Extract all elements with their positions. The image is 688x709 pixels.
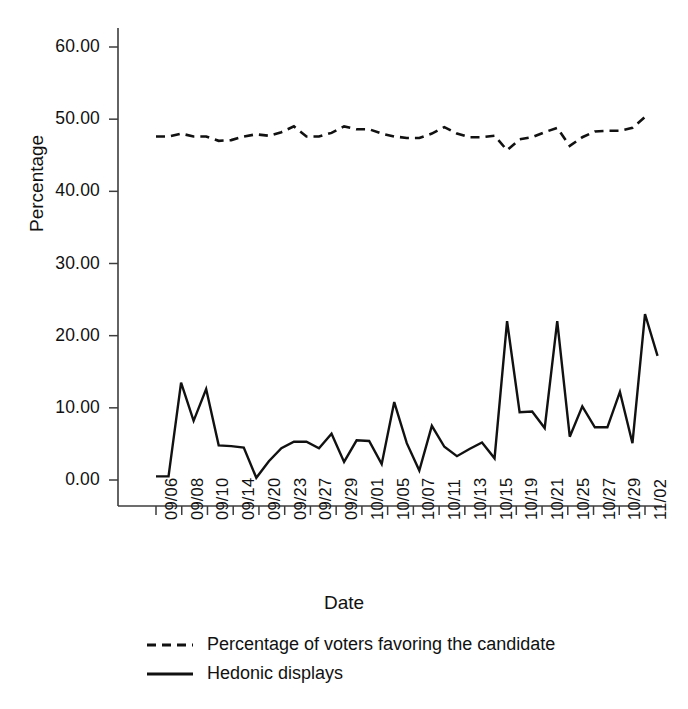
chart-axes	[118, 28, 662, 506]
y-axis-title: Percentage	[26, 135, 48, 232]
x-axis-tick-label: 10/05	[394, 478, 413, 520]
x-axis-tick-label: 10/13	[471, 478, 490, 520]
chart-figure: 0.0010.0020.0030.0040.0050.0060.00 09/06…	[0, 0, 688, 709]
y-axis-tick-label: 30.00	[0, 253, 100, 274]
x-axis-tick-label: 09/14	[239, 478, 258, 520]
y-axis-ticks	[109, 47, 118, 480]
x-axis-tick-label: 10/15	[497, 478, 516, 520]
y-axis-tick-label: 20.00	[0, 325, 100, 346]
legend-swatch-solid-icon	[146, 667, 194, 681]
x-axis-tick-label: 09/08	[188, 478, 207, 520]
x-axis-tick-label: 09/10	[213, 478, 232, 520]
chart-legend: Percentage of voters favoring the candid…	[146, 630, 666, 688]
legend-swatch-dashed-icon	[146, 638, 194, 652]
x-axis-tick-label: 09/23	[291, 478, 310, 520]
y-axis-tick-label: 60.00	[0, 36, 100, 57]
x-axis-tick-label: 10/19	[522, 478, 541, 520]
y-axis-tick-label: 50.00	[0, 108, 100, 129]
x-axis-tick-label: 09/20	[265, 478, 284, 520]
series-line-hedonic	[156, 314, 658, 478]
x-axis-tick-label: 10/27	[600, 478, 619, 520]
x-axis-tick-label: 10/01	[368, 478, 387, 520]
legend-label-voters: Percentage of voters favoring the candid…	[207, 634, 555, 655]
x-axis-tick-label: 09/29	[342, 478, 361, 520]
legend-item-voters: Percentage of voters favoring the candid…	[146, 630, 666, 659]
y-axis-tick-label: 10.00	[0, 397, 100, 418]
x-axis-tick-label: 10/07	[419, 478, 438, 520]
x-axis-tick-label: 10/21	[548, 478, 567, 520]
x-axis-tick-label: 09/06	[162, 478, 181, 520]
x-axis-tick-label: 09/27	[316, 478, 335, 520]
x-axis-tick-label: 11/02	[651, 479, 670, 520]
legend-item-hedonic: Hedonic displays	[146, 659, 666, 688]
x-axis-title: Date	[0, 592, 688, 614]
legend-label-hedonic: Hedonic displays	[207, 663, 343, 684]
series-line-voters	[156, 117, 645, 150]
x-axis-tick-label: 10/11	[445, 479, 464, 520]
y-axis-tick-label: 0.00	[0, 469, 100, 490]
y-axis-tick-label: 40.00	[0, 180, 100, 201]
x-axis-tick-label: 10/29	[625, 478, 644, 520]
x-axis-tick-label: 10/25	[574, 478, 593, 520]
